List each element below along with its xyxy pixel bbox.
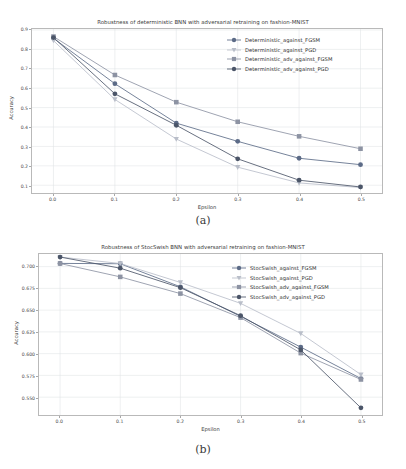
y-tick-mark <box>29 88 31 89</box>
y-tick-label: 0.2 <box>3 164 28 169</box>
y-tick-label: 0.1 <box>3 184 28 189</box>
x-tick-mark <box>176 194 177 196</box>
x-tick-mark <box>120 416 121 418</box>
y-tick-label: 0.575 <box>10 373 35 378</box>
legend-item[interactable]: Deterministic_adv_against_FGSM <box>226 55 332 63</box>
legend-item[interactable]: StocSwish_adv_against_FGSM <box>231 283 329 291</box>
y-tick-mark <box>29 49 31 50</box>
x-tick-label: 0.1 <box>104 197 124 202</box>
figure-a-caption: (a) <box>0 214 406 227</box>
x-tick-mark <box>238 194 239 196</box>
legend-label: StocSwish_against_PGD <box>250 275 313 281</box>
x-tick-label: 0.4 <box>290 197 310 202</box>
y-tick-mark <box>36 398 38 399</box>
legend-marker-triangle-down-icon <box>231 274 247 282</box>
x-tick-mark <box>114 194 115 196</box>
legend-marker-square-icon <box>226 55 242 63</box>
y-tick-mark <box>36 354 38 355</box>
figure-page: Robustness of deterministic BNN with adv… <box>0 0 406 469</box>
x-tick-label: 0.0 <box>49 419 69 424</box>
x-tick-mark <box>362 416 363 418</box>
y-tick-label: 0.550 <box>10 395 35 400</box>
y-tick-mark <box>36 288 38 289</box>
y-tick-label: 0.6 <box>3 85 28 90</box>
legend-marker-circle-icon <box>226 36 242 44</box>
x-tick-label: 0.4 <box>291 419 311 424</box>
chart-b-yaxis-title: Accuracy <box>13 308 19 358</box>
x-tick-mark <box>300 194 301 196</box>
y-tick-label: 0.9 <box>3 26 28 31</box>
x-tick-mark <box>53 194 54 196</box>
y-tick-label: 0.700 <box>10 263 35 268</box>
chart-b-title: Robustness of StocSwish BNN with adversa… <box>0 244 406 250</box>
x-tick-label: 0.0 <box>43 197 63 202</box>
chart-b-xaxis-title: Epsilon <box>38 426 383 432</box>
chart-b-legend: StocSwish_against_FGSMStocSwish_against_… <box>229 263 331 302</box>
legend-label: Deterministic_against_PGD <box>245 47 316 53</box>
chart-a-xaxis-title: Epsilon <box>31 204 383 210</box>
x-tick-label: 0.5 <box>352 419 372 424</box>
legend-label: Deterministic_adv_against_PGD <box>245 66 329 72</box>
legend-item[interactable]: Deterministic_against_PGD <box>226 46 332 54</box>
y-tick-mark <box>36 310 38 311</box>
x-tick-mark <box>180 416 181 418</box>
y-tick-mark <box>36 266 38 267</box>
x-tick-label: 0.3 <box>228 197 248 202</box>
x-tick-label: 0.1 <box>110 419 130 424</box>
y-tick-mark <box>29 108 31 109</box>
legend-marker-circle-icon <box>231 293 247 301</box>
x-tick-mark <box>301 416 302 418</box>
x-tick-label: 0.3 <box>231 419 251 424</box>
x-tick-label: 0.5 <box>351 197 371 202</box>
y-tick-mark <box>36 376 38 377</box>
legend-marker-circle-icon <box>226 65 242 73</box>
x-tick-mark <box>361 194 362 196</box>
figure-b-caption: (b) <box>0 443 406 456</box>
figure-b: Robustness of StocSwish BNN with adversa… <box>0 238 406 434</box>
legend-label: Deterministic_against_FGSM <box>245 37 320 43</box>
y-tick-label: 0.675 <box>10 285 35 290</box>
y-tick-mark <box>29 29 31 30</box>
x-tick-label: 0.2 <box>170 419 190 424</box>
y-tick-mark <box>29 147 31 148</box>
legend-label: StocSwish_adv_against_PGD <box>250 294 325 300</box>
chart-a-title: Robustness of deterministic BNN with adv… <box>0 19 406 25</box>
y-tick-label: 0.4 <box>3 125 28 130</box>
chart-b-plot-area <box>38 253 383 416</box>
chart-a-legend: Deterministic_against_FGSMDeterministic_… <box>224 35 334 74</box>
y-tick-mark <box>36 332 38 333</box>
legend-item[interactable]: StocSwish_against_PGD <box>231 274 329 282</box>
legend-label: StocSwish_against_FGSM <box>250 265 317 271</box>
chart-a-yaxis-title: Accuracy <box>8 83 14 133</box>
y-tick-mark <box>29 186 31 187</box>
legend-marker-square-icon <box>231 283 247 291</box>
legend-item[interactable]: Deterministic_against_FGSM <box>226 36 332 44</box>
y-tick-label: 0.3 <box>3 144 28 149</box>
legend-item[interactable]: Deterministic_adv_against_PGD <box>226 65 332 73</box>
x-tick-label: 0.2 <box>166 197 186 202</box>
y-tick-label: 0.7 <box>3 66 28 71</box>
x-tick-mark <box>241 416 242 418</box>
legend-item[interactable]: StocSwish_adv_against_PGD <box>231 293 329 301</box>
legend-label: StocSwish_adv_against_FGSM <box>250 284 329 290</box>
y-tick-label: 0.5 <box>3 105 28 110</box>
y-tick-label: 0.8 <box>3 46 28 51</box>
legend-marker-triangle-down-icon <box>226 46 242 54</box>
legend-label: Deterministic_adv_against_FGSM <box>245 56 332 62</box>
y-tick-mark <box>29 166 31 167</box>
y-tick-mark <box>29 68 31 69</box>
legend-item[interactable]: StocSwish_against_FGSM <box>231 264 329 272</box>
figure-a: Robustness of deterministic BNN with adv… <box>0 8 406 213</box>
x-tick-mark <box>59 416 60 418</box>
legend-marker-circle-icon <box>231 264 247 272</box>
y-tick-mark <box>29 127 31 128</box>
